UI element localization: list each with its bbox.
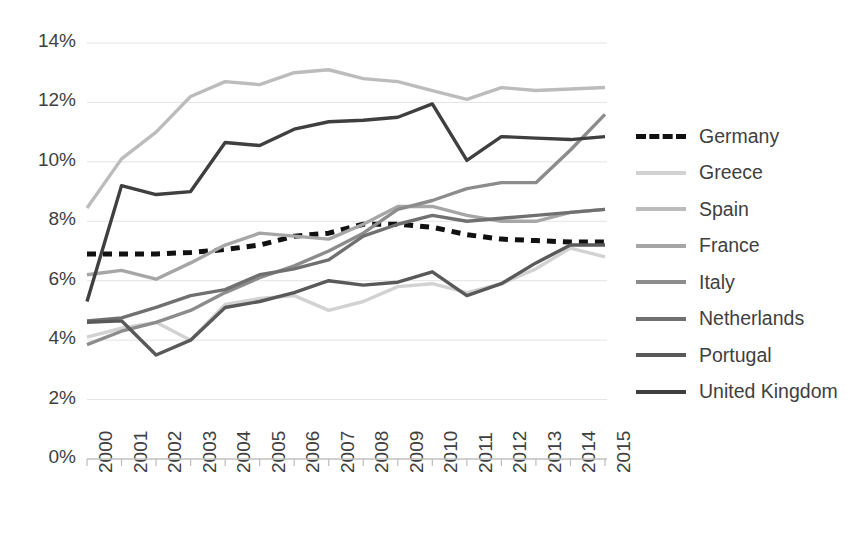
series-line-greece bbox=[87, 248, 605, 340]
legend-item-label: Spain bbox=[699, 198, 749, 221]
legend-item-portugal[interactable]: Portugal bbox=[636, 337, 861, 374]
chart-legend: GermanyGreeceSpainFranceItalyNetherlands… bbox=[636, 118, 861, 410]
legend-item-label: United Kingdom bbox=[699, 380, 838, 403]
legend-item-label: France bbox=[699, 234, 760, 257]
series-line-netherlands bbox=[87, 209, 605, 320]
legend-item-greece[interactable]: Greece bbox=[636, 155, 861, 192]
line-chart: 0%2%4%6%8%10%12%14% 20002001200220032004… bbox=[0, 0, 861, 539]
legend-swatch-icon bbox=[636, 244, 686, 248]
legend-swatch-icon bbox=[636, 353, 686, 357]
legend-item-label: Greece bbox=[699, 161, 763, 184]
legend-item-united-kingdom[interactable]: United Kingdom bbox=[636, 374, 861, 411]
legend-item-spain[interactable]: Spain bbox=[636, 191, 861, 228]
legend-item-label: Portugal bbox=[699, 344, 772, 367]
legend-item-italy[interactable]: Italy bbox=[636, 264, 861, 301]
legend-swatch-icon bbox=[636, 134, 686, 139]
legend-item-label: Germany bbox=[699, 125, 779, 148]
legend-item-label: Netherlands bbox=[699, 307, 804, 330]
legend-swatch-icon bbox=[636, 317, 686, 321]
legend-item-germany[interactable]: Germany bbox=[636, 118, 861, 155]
legend-item-netherlands[interactable]: Netherlands bbox=[636, 301, 861, 338]
legend-item-france[interactable]: France bbox=[636, 228, 861, 265]
legend-item-label: Italy bbox=[699, 271, 735, 294]
series-line-portugal bbox=[87, 245, 605, 355]
legend-swatch-icon bbox=[636, 171, 686, 175]
legend-swatch-icon bbox=[636, 207, 686, 211]
legend-swatch-icon bbox=[636, 390, 686, 394]
legend-swatch-icon bbox=[636, 280, 686, 284]
